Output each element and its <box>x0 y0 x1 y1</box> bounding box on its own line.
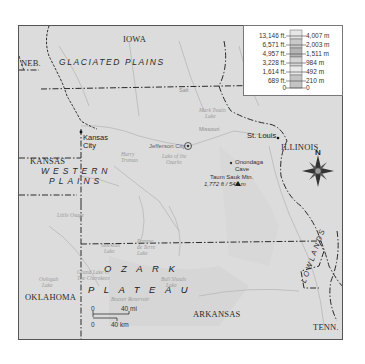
compass-rose-icon <box>302 155 334 187</box>
legend-ft-2: 4,957 ft. <box>246 50 286 57</box>
region-label-ozark: OZARK <box>104 263 184 274</box>
feature-label-onondaga-cave: Onondaga Cave <box>235 159 263 172</box>
lake-label-beaver: Beaver Reservoir <box>111 296 149 302</box>
state-label-nebraska: NEB. <box>21 58 41 68</box>
lake-label-bull-shoals: Bull Shoals Lake <box>161 276 186 288</box>
legend-m-2: 1,511 m <box>306 50 342 57</box>
state-label-oklahoma: OKLAHOMA <box>25 292 76 302</box>
legend-m-0: 4,007 m <box>306 32 342 39</box>
river-label-little-osage: Little Osage <box>57 212 84 218</box>
scale-mi-zero: 0 <box>91 305 95 312</box>
legend-m-3: 984 m <box>306 59 342 66</box>
region-label-glaciated-plains: GLACIATED PLAINS <box>59 57 165 67</box>
lake-label-truman: Harry Truman <box>121 151 138 163</box>
scale-km-zero: 0 <box>91 321 95 328</box>
lake-label-oologah: Oologah Lake <box>39 276 58 288</box>
lake-label-pomme-de-terre: Pomme de Terre Lake <box>137 238 155 256</box>
legend-ft-6: 0 <box>246 84 286 91</box>
legend-ft-0: 13,146 ft. <box>246 32 286 39</box>
legend-ft-5: 689 ft. <box>246 77 286 84</box>
legend-m-4: 492 m <box>306 68 342 75</box>
lake-label-grand-lake: Grand Lake O' The Cherokees <box>77 269 110 281</box>
state-label-iowa: IOWA <box>123 34 146 44</box>
river-label-missouri: Missouri <box>199 126 219 132</box>
scale-mi-label: 40 mi <box>121 305 137 312</box>
legend-m-1: 2,003 m <box>306 41 342 48</box>
legend-m-6: 0 <box>306 84 342 91</box>
lake-label-stockton: Stockton Lake <box>101 242 120 254</box>
region-label-western: WESTERN <box>41 166 112 176</box>
state-label-illinois: ILLINOIS <box>281 142 318 152</box>
city-label-kansas-city: Kansas City <box>83 134 108 150</box>
legend-ft-3: 3,228 ft. <box>246 59 286 66</box>
elevation-legend: 13,146 ft. 4,007 m 6,571 ft. 2,003 m 4,9… <box>243 25 343 96</box>
legend-m-5: 210 m <box>306 77 342 84</box>
lake-label-ozarks: Lake of the Ozarks <box>162 153 186 165</box>
state-label-arkansas: ARKANSAS <box>193 309 240 319</box>
state-label-tennessee: TENN. <box>313 322 339 332</box>
lake-label-mark-twain: Mark Twain Lake <box>199 107 226 119</box>
legend-ft-4: 1,614 ft. <box>246 68 286 75</box>
region-label-plains: PLAINS <box>49 176 103 186</box>
city-label-st-louis: St. Louis <box>247 132 276 140</box>
legend-ft-1: 6,571 ft. <box>246 41 286 48</box>
state-label-kansas: KANSAS <box>30 156 65 166</box>
scale-km-label: 40 km <box>111 321 129 328</box>
compass-north-label: N <box>315 148 321 157</box>
city-label-jefferson-city: Jefferson City <box>149 142 186 150</box>
feature-label-taum-sauk: Taum Sauk Mtn. 1,772 ft / 540 m <box>204 174 253 187</box>
river-label-salt: Salt <box>179 87 188 93</box>
